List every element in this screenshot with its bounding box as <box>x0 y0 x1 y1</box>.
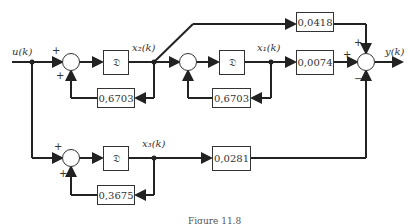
gain-feedforward: 0,0418 <box>296 12 334 32</box>
x1-label: x₁(k) <box>257 42 281 53</box>
delay-block-3: 𝔇 <box>103 146 129 171</box>
junction-input <box>30 60 35 65</box>
summer-output <box>358 54 375 71</box>
sign-plus: + <box>343 49 351 60</box>
sign-plus: + <box>52 45 60 56</box>
gain-fb3: 0,3675 <box>97 185 135 205</box>
gain-x1: 0,0074 <box>296 50 334 75</box>
delay-block-1: 𝔇 <box>103 50 129 75</box>
input-label: u(k) <box>12 46 32 57</box>
sign-plus: + <box>56 70 64 81</box>
delay-block-2: 𝔇 <box>219 50 245 75</box>
junction-x3 <box>152 156 157 161</box>
output-label: y(k) <box>385 46 405 57</box>
sign-plus: + <box>54 141 62 152</box>
summer-1 <box>63 54 80 71</box>
summer-3 <box>63 150 80 167</box>
gain-fb2: 0,6703 <box>212 88 251 108</box>
sign-minus: − <box>354 73 362 84</box>
junction-x1 <box>269 60 274 65</box>
x3-label: x₃(k) <box>142 138 166 149</box>
junction-x2 <box>152 60 157 65</box>
x2-label: x₂(k) <box>132 42 156 53</box>
sign-plus: + <box>354 37 362 48</box>
summer-2 <box>180 54 197 71</box>
gain-x3: 0,0281 <box>212 146 251 171</box>
diagram-wiring <box>0 0 410 224</box>
sign-plus: + <box>59 168 67 179</box>
gain-fb1: 0,6703 <box>97 88 135 108</box>
figure-caption: Figure 11.8 <box>188 216 241 224</box>
